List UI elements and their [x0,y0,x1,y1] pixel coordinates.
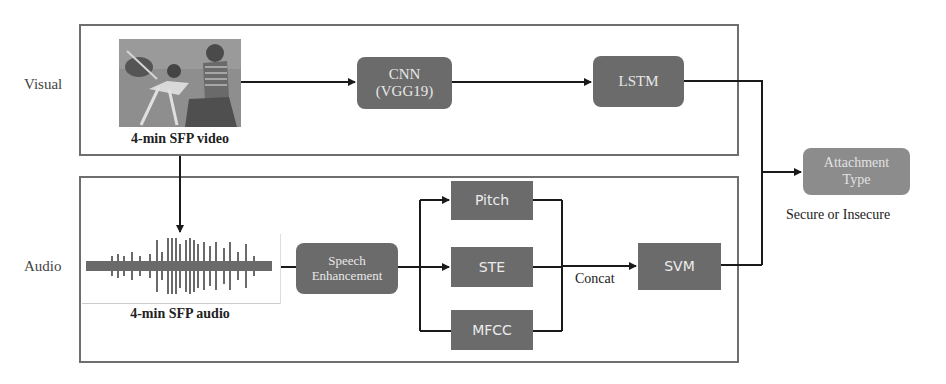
speech-enhancement-label-1: Speech [328,254,366,269]
svm-label: SVM [664,258,695,274]
speech-enhancement-label-2: Enhancement [312,269,383,284]
cnn-vgg19-node: CNN (VGG19) [357,57,452,109]
audio-input-caption: 4-min SFP audio [100,306,260,322]
attachment-type-label-1: Attachment [824,155,889,171]
video-thumbnail [119,39,241,127]
mfcc-label: MFCC [472,322,512,338]
cnn-sublabel: (VGG19) [376,83,434,100]
audio-waveform [82,234,281,304]
concat-label: Concat [575,271,615,287]
speech-enhancement-node: Speech Enhancement [296,243,398,294]
lstm-node: LSTM [593,56,684,107]
mfcc-feature-node: MFCC [451,310,533,350]
output-caption: Secure or Insecure [786,207,890,223]
pitch-label: Pitch [475,192,509,208]
attachment-type-node: Attachment Type [803,148,910,195]
attachment-type-label-2: Type [843,172,871,188]
ste-feature-node: STE [451,247,533,287]
waveform-graphic [82,234,280,303]
video-input-caption: 4-min SFP video [100,131,260,147]
cnn-label: CNN [389,66,421,83]
pitch-feature-node: Pitch [451,181,533,220]
svm-node: SVM [638,243,721,290]
video-frame-illustration [119,39,241,127]
ste-label: STE [479,259,505,275]
lstm-label: LSTM [618,73,658,90]
